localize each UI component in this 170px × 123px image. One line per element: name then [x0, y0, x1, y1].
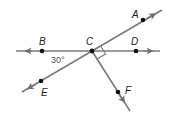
label-b: B	[39, 36, 46, 47]
point-c	[90, 49, 95, 54]
point-d	[134, 49, 139, 54]
label-f: F	[125, 85, 132, 96]
geometry-diagram: A B C D E F 30°	[0, 0, 170, 123]
arrow-down-icon	[119, 94, 123, 100]
angle-label-30: 30°	[51, 55, 65, 65]
label-d: D	[131, 36, 138, 47]
point-b	[40, 49, 45, 54]
point-e	[39, 79, 44, 84]
ray-cf	[92, 51, 130, 111]
label-e: E	[41, 87, 48, 98]
label-c: C	[86, 36, 94, 47]
point-a	[141, 18, 146, 23]
point-f	[116, 90, 121, 95]
arrow-down-left-icon	[30, 84, 36, 88]
arrow-up-right-icon	[147, 15, 153, 19]
label-a: A	[131, 9, 139, 20]
